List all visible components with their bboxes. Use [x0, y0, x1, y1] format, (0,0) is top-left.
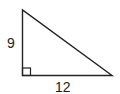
horizontal-leg-label: 12 — [55, 79, 71, 94]
right-angle-marker — [23, 68, 31, 76]
triangle-diagram: 9 12 — [0, 0, 120, 94]
vertical-leg-label: 9 — [7, 35, 15, 51]
right-triangle — [23, 10, 113, 76]
